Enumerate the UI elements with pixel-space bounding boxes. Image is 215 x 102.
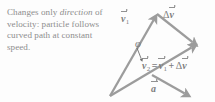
label-v1-symbol: v [121,13,125,24]
label-v1-subscript: 1 [126,18,130,26]
vector-acceleration [152,75,185,94]
equation-equals-sign: = [152,60,158,71]
equation-rhs1-symbol: v [159,60,163,71]
label-delta-v-symbol: v [169,9,173,20]
label-equation-v2: v2=v1+Δv [142,60,187,73]
label-acceleration: a [151,83,156,94]
equation-lhs-symbol: v [142,60,146,71]
equation-plus-sign: + [168,60,174,71]
equation-rhs2-symbol: v [182,60,186,71]
label-v1: v1 [121,13,129,26]
velocity-direction-change-figure: Changes only direction of velocity: part… [0,0,215,102]
label-delta-v: Δv [163,9,174,20]
label-acceleration-symbol: a [151,83,156,94]
equation-rhs1-subscript: 1 [163,65,167,73]
vector-diagram-svg [0,0,215,102]
equation-lhs-subscript: 2 [147,65,151,73]
label-phi-angle: φ [135,38,141,49]
